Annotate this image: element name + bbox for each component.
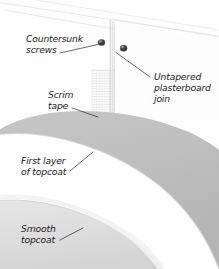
screw-right (120, 45, 127, 51)
label-untapered-join-line3: join (152, 93, 170, 104)
label-untapered-join-line1: Untapered (154, 71, 201, 82)
label-smooth-topcoat: Smooth topcoat (21, 223, 56, 245)
label-scrim-tape-line1: Scrim (48, 89, 74, 100)
label-first-layer-of-topcoat: First layer of topcoat (21, 155, 67, 177)
screw-left (98, 39, 105, 45)
label-first-layer-line2: of topcoat (21, 166, 67, 177)
label-first-layer-line1: First layer (21, 155, 67, 166)
label-untapered-join-line2: plasterboard (153, 82, 211, 93)
label-countersunk-screws-line2: screws (26, 44, 57, 55)
diagram-canvas: Countersunk screws Untapered plasterboar… (0, 0, 219, 269)
label-scrim-tape-line2: tape (48, 100, 69, 111)
label-smooth-topcoat-line2: topcoat (21, 234, 55, 245)
label-countersunk-screws-line1: Countersunk (26, 33, 84, 44)
label-smooth-topcoat-line1: Smooth (21, 223, 56, 234)
plasterboard-join-diagram: Countersunk screws Untapered plasterboar… (0, 0, 219, 269)
